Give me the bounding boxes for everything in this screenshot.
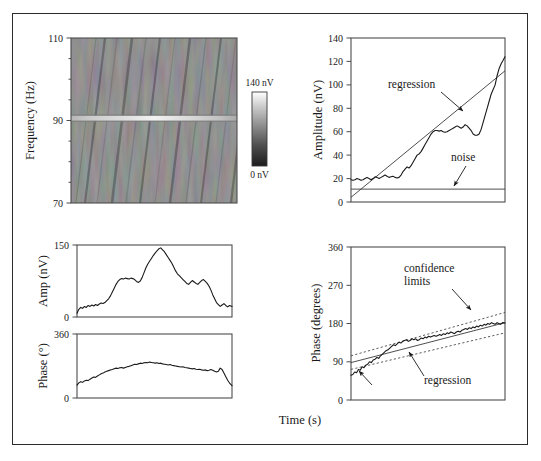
phase-y-ticks [347,247,352,400]
amplitude-regression-arrow [441,92,463,111]
phase-slice-plot-frame [77,334,232,398]
phase-slice-y-ticks [73,334,78,398]
phase-slice-ytick-360: 360 [54,329,69,340]
amplitude-ytick-40: 40 [333,150,343,161]
spectrogram-ytick-90: 90 [53,115,63,126]
spectrogram-image [71,38,251,203]
phase-confidence-arrow [452,289,471,310]
amplitude-ytick-80: 80 [333,103,343,114]
shared-x-axis-label: Time (s) [279,413,321,427]
figure-root: 110 90 70 Frequency (Hz) 140 nV 0 nV [0,0,541,461]
amplitude-regression-annotation: regression [388,78,436,91]
amplitude-y-axis-title: Amplitude (nV) [311,80,325,160]
amp-slice-ytick-0: 0 [64,312,69,323]
colorbar-max-label: 140 nV [245,78,273,88]
figure-canvas: 110 90 70 Frequency (Hz) 140 nV 0 nV [0,0,541,461]
phase-ytick-270: 270 [328,280,343,291]
phase-confidence-annotation-line2: limits [404,275,431,287]
phase-regression-arrow [409,352,424,376]
amplitude-ytick-140: 140 [328,33,343,44]
phase-slice-ytick-0: 0 [64,393,69,404]
amplitude-noise-arrow [454,166,466,186]
phase-regression-line [351,323,505,363]
spectrogram-y-ticks [67,38,72,203]
panel-amp-slice: 150 0 Amp (nV) [36,240,232,323]
phase-slice-y-axis-title: Phase (°) [36,343,50,389]
amplitude-data-curve [351,57,505,181]
phase-start-arrow [359,371,372,385]
amplitude-ytick-60: 60 [333,126,343,137]
panel-phase-vs-time: 360 270 180 90 0 Phase (degrees) confide… [309,242,505,406]
spectrogram-bright-band [71,116,237,121]
amplitude-ytick-0: 0 [338,197,343,208]
phase-lower-confidence-line [351,333,505,370]
phase-slice-data-curve [77,362,232,385]
panel-amplitude-vs-time: 140 120 100 80 60 40 20 0 Amplitude (nV)… [311,33,505,208]
spectrogram-ytick-70: 70 [53,198,63,209]
colorbar-gradient [252,92,267,166]
amp-slice-y-ticks [73,245,78,317]
phase-upper-confidence-line [351,312,505,355]
panel-spectrogram: 110 90 70 Frequency (Hz) [23,33,251,209]
colorbar-min-label: 0 nV [250,170,269,180]
amp-slice-ytick-150: 150 [54,240,69,251]
phase-regression-annotation: regression [424,374,472,387]
amplitude-ytick-100: 100 [328,79,343,90]
amplitude-noise-annotation: noise [451,151,475,163]
phase-ytick-360: 360 [328,242,343,253]
amplitude-ytick-20: 20 [333,173,343,184]
amp-slice-y-axis-title: Amp (nV) [36,255,50,307]
phase-ytick-0: 0 [338,395,343,406]
spectrogram-y-axis-title: Frequency (Hz) [23,81,37,160]
amplitude-y-ticks [347,38,352,202]
phase-ytick-90: 90 [333,356,343,367]
amp-slice-data-curve [77,248,232,313]
phase-ytick-180: 180 [328,318,343,329]
amp-slice-plot-frame [77,245,232,317]
phase-confidence-annotation-line1: confidence [404,262,454,274]
amplitude-colorbar: 140 nV 0 nV [245,78,273,180]
panel-phase-slice: 360 0 Phase (°) [36,329,232,404]
amplitude-ytick-120: 120 [328,56,343,67]
phase-y-axis-title: Phase (degrees) [309,284,323,363]
spectrogram-ytick-110: 110 [48,33,63,44]
